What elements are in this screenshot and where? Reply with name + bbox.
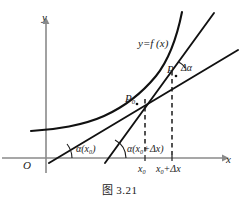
- x-tick-label-x0-plus-dx: x0+Δx: [156, 164, 181, 175]
- figure-container: y x O y=f (x) P P0 Δα α(x0) α(x0+Δx) x0 …: [0, 0, 239, 201]
- function-curve: [31, 12, 182, 131]
- x-tick-label-x0: x0: [138, 164, 146, 175]
- angle-alpha-x0-open: α(: [76, 143, 85, 154]
- point-label-p0-subscript: 0: [132, 98, 135, 105]
- figure-caption: 图 3.21: [0, 181, 239, 197]
- angle-label-alpha-x0-plus-dx: α(x0+Δx): [127, 144, 164, 155]
- origin-label: O: [23, 160, 31, 171]
- y-axis-label: y: [42, 12, 47, 23]
- angle-alpha-x0-close: ): [92, 143, 95, 154]
- math-diagram: [0, 0, 239, 201]
- angle-alpha-x0dx-tail: +Δx: [143, 143, 160, 154]
- point-label-p0: P0: [125, 93, 135, 106]
- angle-alpha-x0dx-close: ): [160, 143, 163, 154]
- point-marker-p0: [136, 103, 139, 106]
- x-axis-label: x: [226, 154, 231, 165]
- angle-alpha-x0dx-open: α(: [127, 143, 136, 154]
- point-label-p0-main: P: [125, 92, 132, 104]
- delta-alpha-label: Δα: [181, 63, 192, 73]
- point-marker-p: [175, 75, 178, 78]
- point-label-p: P: [167, 64, 174, 75]
- x-tick-x0dx-tail: +Δx: [164, 163, 181, 174]
- tangent-line-at-p: [105, 13, 214, 163]
- function-curve-label: y=f (x): [138, 38, 168, 49]
- angle-label-alpha-x0: α(x0): [76, 144, 95, 155]
- x-tick-x0-subscript: 0: [142, 168, 145, 175]
